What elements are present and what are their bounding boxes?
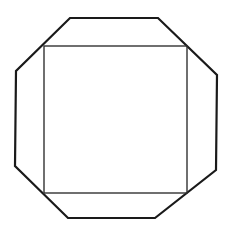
- inscribed-square-shape: [44, 46, 187, 193]
- diagram-svg: [0, 0, 230, 229]
- diagram-canvas: [0, 0, 230, 229]
